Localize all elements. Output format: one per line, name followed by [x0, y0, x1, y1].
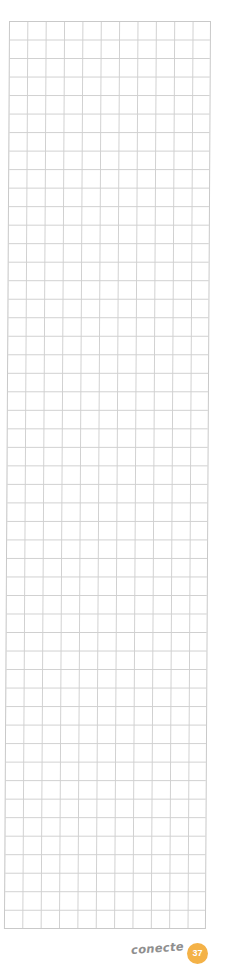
- graph-paper-grid: [4, 21, 211, 929]
- page-number-badge: 37: [187, 943, 208, 964]
- brand-logo: conecte: [131, 939, 185, 957]
- page-footer: conecte 37: [0, 940, 225, 965]
